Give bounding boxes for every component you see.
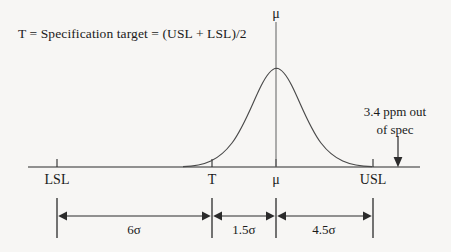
- out-of-spec-annotation: 3.4 ppm out of spec: [352, 103, 438, 138]
- measure-arrow-6-sigma: [58, 212, 211, 221]
- measure-arrow-4-5-sigma: [277, 212, 372, 221]
- axis-label-t: T: [208, 172, 217, 188]
- mu-top-label: μ: [272, 6, 280, 22]
- out-of-spec-line-1: 3.4 ppm out: [364, 104, 426, 119]
- span-label-1-5-sigma: 1.5σ: [232, 223, 255, 238]
- out-of-spec-line-2: of spec: [376, 122, 413, 137]
- axis-label-usl: USL: [360, 172, 386, 188]
- measure-arrow-1-5-sigma: [213, 212, 275, 221]
- axis-label-mu: μ: [272, 172, 280, 188]
- axis-label-lsl: LSL: [45, 172, 70, 188]
- six-sigma-diagram: T = Specification target = (USL + LSL)/2…: [0, 0, 451, 252]
- span-label-4-5-sigma: 4.5σ: [312, 223, 335, 238]
- span-label-6-sigma: 6σ: [127, 223, 141, 238]
- down-arrow-icon: [394, 136, 403, 167]
- bell-curve: [183, 68, 372, 166]
- specification-target-caption: T = Specification target = (USL + LSL)/2: [18, 26, 247, 42]
